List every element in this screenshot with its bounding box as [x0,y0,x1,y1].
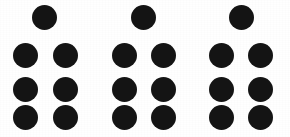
dot-group-3 [0,0,290,137]
dot [229,5,254,30]
dot [209,43,234,68]
dot [248,77,273,102]
dot [248,43,273,68]
dot [248,105,273,130]
dot-pattern-canvas [0,0,290,137]
dot [209,77,234,102]
dot [209,105,234,130]
